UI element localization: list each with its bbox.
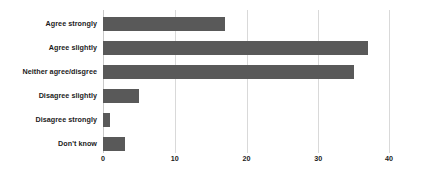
bar-chart: Agree strongly Agree slightly Neither ag…	[0, 0, 428, 183]
bar-row	[103, 137, 390, 151]
bar-row	[103, 89, 390, 103]
bar	[103, 113, 110, 127]
bar	[103, 89, 139, 103]
bar-row	[103, 41, 390, 55]
category-label: Disagree strongly	[0, 113, 97, 127]
bar	[103, 65, 354, 79]
x-tick-label: 0	[101, 153, 105, 165]
bars	[103, 10, 390, 150]
bar-row	[103, 17, 390, 31]
bar	[103, 41, 368, 55]
bar-row	[103, 113, 390, 127]
bar-row	[103, 65, 390, 79]
category-axis-labels: Agree strongly Agree slightly Neither ag…	[0, 10, 97, 150]
x-tick-label: 20	[243, 153, 251, 165]
x-tick-label: 10	[171, 153, 179, 165]
bar	[103, 17, 225, 31]
category-label: Agree slightly	[0, 41, 97, 55]
category-label: Agree strongly	[0, 17, 97, 31]
x-tick-label: 30	[314, 153, 322, 165]
category-label: Neither agree/disgree	[0, 65, 97, 79]
category-label: Disagree slightly	[0, 89, 97, 103]
category-label: Don't know	[0, 137, 97, 151]
bar	[103, 137, 125, 151]
plot-area	[103, 10, 390, 150]
x-tick-label: 40	[385, 153, 393, 165]
x-axis-tick-labels: 0 10 20 30 40	[103, 153, 390, 167]
